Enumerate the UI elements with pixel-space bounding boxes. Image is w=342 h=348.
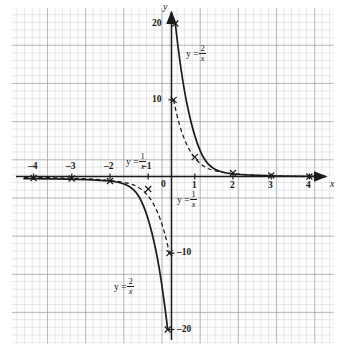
- plot-canvas: [0, 0, 342, 348]
- label-2-over-x-bottom: y =2x: [114, 277, 135, 295]
- x-tick-label--3: –3: [66, 162, 76, 172]
- origin-label: 0: [161, 180, 166, 190]
- graph-figure: y x 0 –4 –3 –2 –1 1 2 3 4 20 10 –10 –20 …: [0, 0, 342, 348]
- eq-prefix: y =: [114, 282, 126, 292]
- fraction-2-over-x: 2x: [127, 277, 133, 295]
- label-1-over-x-upper: y =1x: [126, 152, 147, 170]
- curve-2-over-x-branch-negative: [24, 179, 168, 330]
- fraction-1-over-x: 1x: [190, 190, 196, 208]
- x-tick-label--2: –2: [104, 162, 114, 172]
- fraction-2-over-x: 2x: [199, 44, 205, 62]
- label-1-over-x-lower: y =1x: [177, 190, 198, 208]
- eq-prefix: y =: [126, 157, 138, 167]
- y-axis-label: y: [163, 2, 167, 12]
- x-tick-label-4: 4: [306, 181, 311, 191]
- y-tick-label--10: –10: [177, 248, 191, 258]
- fraction-1-over-x: 1x: [139, 152, 145, 170]
- label-2-over-x-top: y =2x: [186, 44, 207, 62]
- y-tick-label-20: 20: [152, 19, 162, 29]
- x-tick-label-2: 2: [230, 181, 235, 191]
- x-tick-label--4: –4: [28, 162, 38, 172]
- x-axis-label: x: [330, 179, 334, 189]
- eq-prefix: y =: [177, 195, 189, 205]
- eq-prefix: y =: [186, 49, 198, 59]
- y-tick-label--20: –20: [177, 325, 191, 335]
- x-tick-label-3: 3: [268, 181, 273, 191]
- y-tick-label-10: 10: [152, 95, 162, 105]
